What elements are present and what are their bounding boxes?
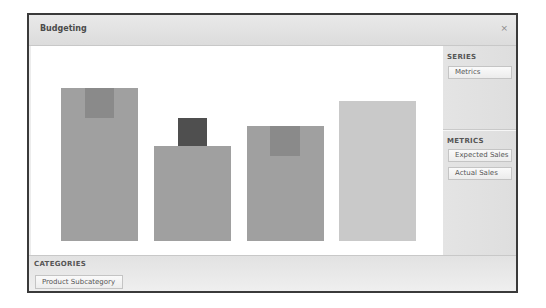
chart-bar-marker[interactable] [85, 88, 114, 118]
metric-item-expected-sales[interactable]: Expected Sales [448, 149, 512, 162]
categories-label: CATEGORIES [34, 260, 86, 268]
series-label: SERIES [447, 53, 476, 61]
category-item-product-subcategory[interactable]: Product Subcategory [35, 275, 123, 289]
metrics-section: METRICS Expected Sales Actual Sales [443, 130, 516, 255]
title-bar: Budgeting × [29, 15, 516, 46]
chart-bar-marker[interactable] [270, 126, 300, 156]
chart-area [31, 46, 444, 255]
series-section: SERIES Metrics [443, 46, 516, 130]
close-icon[interactable]: × [500, 23, 508, 33]
window-title: Budgeting [40, 24, 87, 33]
chart-bar[interactable] [154, 146, 231, 241]
budgeting-window: Budgeting × SERIES Metrics METRICS Expec… [27, 13, 518, 293]
side-panel: SERIES Metrics METRICS Expected Sales Ac… [443, 46, 516, 255]
metric-item-actual-sales[interactable]: Actual Sales [448, 167, 512, 180]
chart-bar-marker[interactable] [178, 118, 207, 146]
chart-bar[interactable] [339, 101, 416, 241]
categories-panel: CATEGORIES Product Subcategory [29, 255, 516, 291]
metrics-label: METRICS [447, 137, 484, 145]
series-item-metrics[interactable]: Metrics [448, 66, 512, 79]
